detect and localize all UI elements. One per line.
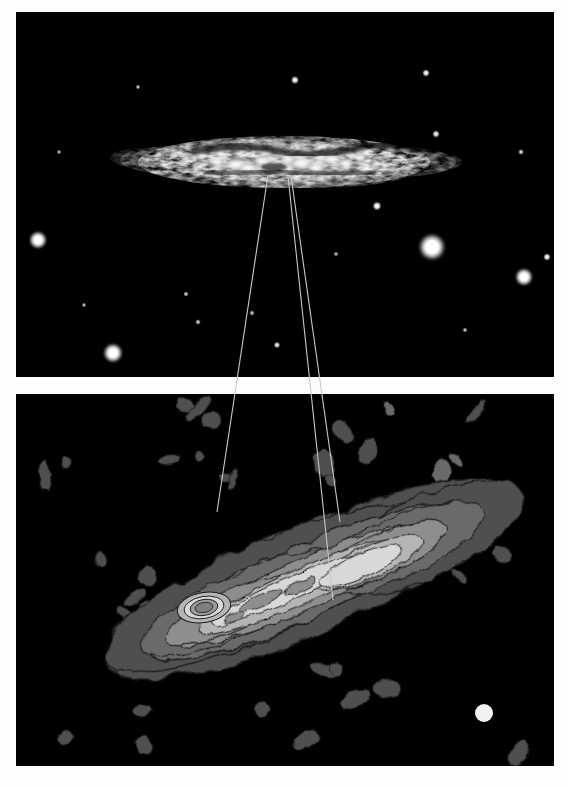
noise-contour-blob bbox=[254, 703, 270, 716]
noise-contour-blob bbox=[132, 704, 150, 716]
star-faint-12-core bbox=[58, 151, 60, 153]
star-bright-2-core bbox=[520, 273, 527, 280]
radio-contour-map-panel bbox=[16, 394, 554, 766]
star-faint-11-core bbox=[520, 151, 522, 153]
noise-contour-blob bbox=[57, 730, 75, 745]
optical-image-svg bbox=[16, 12, 554, 377]
star-faint-3-core bbox=[435, 133, 438, 136]
star-faint-14-core bbox=[251, 312, 253, 314]
noise-contour-blob bbox=[432, 458, 452, 484]
star-faint-1-core bbox=[293, 78, 296, 81]
star-faint-13-core bbox=[464, 329, 466, 331]
star-faint-7-core bbox=[276, 344, 279, 347]
star-faint-9-core bbox=[185, 293, 187, 295]
radio-contour-svg bbox=[16, 394, 554, 766]
star-bright-1-core bbox=[427, 242, 438, 253]
star-faint-2-core bbox=[425, 72, 428, 75]
star-faint-10-core bbox=[137, 86, 139, 88]
star-faint-5-core bbox=[546, 256, 549, 259]
beam-size-marker bbox=[475, 704, 493, 722]
star-bright-3-core bbox=[34, 236, 41, 243]
optical-image-panel bbox=[16, 12, 554, 377]
star-faint-4-core bbox=[375, 204, 378, 207]
star-faint-8-core bbox=[197, 321, 199, 323]
star-faint-15-core bbox=[335, 253, 337, 255]
star-bright-4-core bbox=[109, 349, 117, 357]
two-panel-astronomical-figure bbox=[0, 0, 568, 787]
sky-background bbox=[16, 12, 554, 377]
star-faint-16-core bbox=[83, 304, 85, 306]
